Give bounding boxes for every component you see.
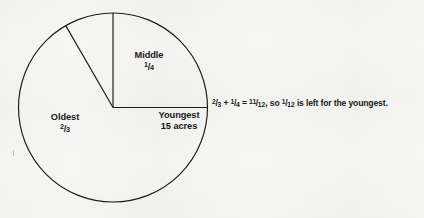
annotation-equals-operator: =: [240, 98, 249, 108]
slice-label-middle: Middle 1/4: [113, 50, 185, 72]
fraction-two-thirds: 2/3: [60, 123, 70, 134]
slice-label-middle-name: Middle: [113, 50, 185, 60]
pie-chart-figure: Middle 1/4 Oldest 2/3 Youngest 15 acres …: [0, 0, 424, 218]
pie-radius-lower-right: [66, 26, 113, 108]
fraction-denominator: 12: [287, 101, 294, 108]
annotation-fraction-two-thirds: 2/3: [212, 98, 221, 109]
annotation-tail-text: is left for the youngest.: [295, 98, 388, 108]
scan-speck-artifact: [13, 150, 14, 156]
slice-label-oldest-name: Oldest: [29, 112, 101, 122]
annotation-note: 2/3 + 1/4 = 11/12, so 1/12 is left for t…: [212, 98, 420, 109]
slice-label-middle-fraction: 1/4: [113, 61, 185, 72]
fraction-one-quarter: 1/4: [144, 61, 154, 72]
annotation-plus-operator: +: [221, 98, 230, 108]
fraction-denominator: 3: [66, 125, 70, 134]
slice-label-youngest-acreage: 15 acres: [146, 121, 212, 131]
fraction-denominator: 4: [150, 63, 154, 72]
annotation-connector-text: , so: [265, 98, 281, 108]
slice-label-oldest-fraction: 2/3: [29, 123, 101, 134]
slice-label-youngest-name: Youngest: [146, 110, 212, 120]
slice-label-youngest: Youngest 15 acres: [146, 110, 212, 131]
annotation-fraction-one-quarter: 1/4: [231, 98, 240, 109]
slice-label-oldest: Oldest 2/3: [29, 112, 101, 134]
annotation-fraction-eleven-twelfths: 11/12: [249, 98, 265, 109]
annotation-fraction-one-twelfth: 1/12: [282, 98, 295, 109]
